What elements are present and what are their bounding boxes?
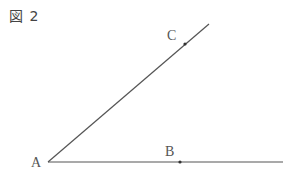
angle-diagram: A B C xyxy=(0,0,301,178)
point-c-dot xyxy=(183,42,186,45)
point-b-dot xyxy=(178,160,181,163)
label-a: A xyxy=(31,155,42,170)
label-c: C xyxy=(167,28,176,43)
label-b: B xyxy=(165,144,174,159)
